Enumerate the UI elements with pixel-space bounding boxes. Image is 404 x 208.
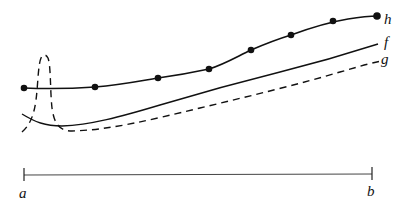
diagram-canvas: h f g a b	[0, 0, 404, 208]
interval-line	[24, 174, 372, 175]
label-g: g	[381, 51, 389, 67]
label-b: b	[367, 183, 375, 199]
label-f: f	[384, 34, 390, 50]
curve-f	[22, 44, 378, 126]
curve-h	[24, 16, 378, 88]
label-a: a	[19, 185, 27, 201]
label-h: h	[384, 11, 392, 27]
curve-g	[22, 55, 382, 132]
